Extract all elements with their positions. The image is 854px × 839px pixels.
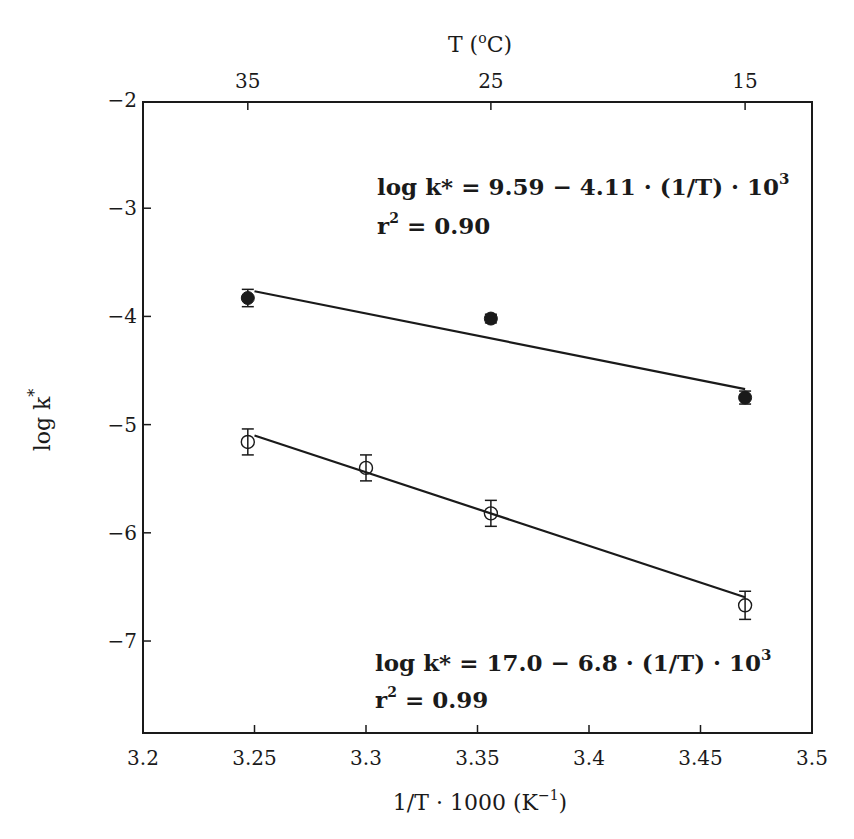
x-tick-label: 3.25 (232, 746, 277, 770)
x-axis-title: 1/T · 1000 (K−1) (393, 787, 567, 815)
fit-line-filled (255, 291, 746, 389)
filled-data-point (484, 312, 497, 325)
r2-lower: r2 = 0.99 (375, 684, 488, 713)
top-tick-label: 35 (235, 69, 260, 93)
x-axis-ticks: 3.23.253.33.353.43.453.5 (127, 725, 828, 770)
top-axis-title: T (oC) (448, 30, 512, 57)
top-tick-label: 25 (478, 69, 503, 93)
y-axis-title: log k* (25, 389, 55, 452)
filled-circle-marker (241, 292, 254, 305)
r2-upper: r2 = 0.90 (377, 210, 490, 239)
x-tick-label: 3.2 (127, 746, 159, 770)
filled-circle-marker (484, 312, 497, 325)
x-tick-label: 3.3 (350, 746, 382, 770)
open-data-point (484, 500, 497, 526)
x-tick-label: 3.45 (678, 746, 723, 770)
filled-data-point (241, 289, 254, 306)
fit-annotation-lower: log k* = 17.0 − 6.8 · (1/T) · 103 r2 = 0… (375, 646, 772, 713)
arrhenius-chart: 3.23.253.33.353.43.453.5 −2−3−4−5−6−7 35… (0, 0, 854, 839)
y-tick-label: −4 (108, 304, 137, 328)
fit-annotation-upper: log k* = 9.59 − 4.11 · (1/T) · 103 r2 = … (377, 170, 790, 239)
equation-upper: log k* = 9.59 − 4.11 · (1/T) · 103 (377, 170, 790, 200)
x-tick-label: 3.5 (796, 746, 828, 770)
top-tick-label: 15 (732, 69, 757, 93)
x-tick-label: 3.4 (573, 746, 605, 770)
y-tick-label: −6 (108, 521, 137, 545)
y-tick-label: −5 (108, 413, 137, 437)
y-tick-label: −3 (108, 196, 137, 220)
y-axis-ticks: −2−3−4−5−6−7 (108, 88, 151, 653)
filled-data-point (739, 391, 752, 404)
filled-circle-marker (739, 391, 752, 404)
open-data-point (360, 455, 373, 481)
y-tick-label: −2 (108, 88, 137, 112)
fit-line-open (255, 435, 746, 597)
open-data-point (241, 429, 254, 455)
fit-lines (255, 291, 746, 597)
y-tick-label: −7 (108, 629, 137, 653)
equation-lower: log k* = 17.0 − 6.8 · (1/T) · 103 (375, 646, 772, 676)
top-axis-ticks: 352515 (235, 69, 758, 110)
x-tick-label: 3.35 (455, 746, 500, 770)
